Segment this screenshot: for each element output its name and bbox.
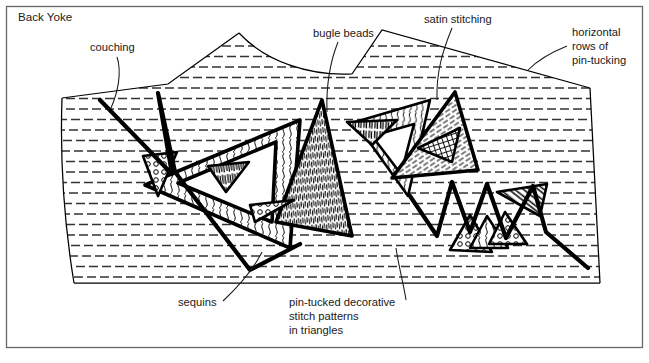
label-sequins: sequins	[178, 296, 217, 308]
label-horizontal-rows-of-pin-tucking: horizontalrows ofpin-tucking	[572, 26, 626, 66]
leader-pin-tucking	[528, 46, 567, 70]
label-back-yoke: Back Yoke	[18, 10, 72, 23]
label-satin-stitching: satin stitching	[424, 13, 492, 25]
illustration-stage: Back Yokecouchingbugle beadssatin stitch…	[0, 0, 649, 363]
label-bugle-beads: bugle beads	[313, 27, 374, 39]
label-pin-tucked-decorative-stitch-patterns-in-triangles: pin-tucked decorativestitch patternsin t…	[289, 296, 395, 336]
label-couching: couching	[90, 41, 135, 53]
back-yoke-technical-illustration: Back Yokecouchingbugle beadssatin stitch…	[0, 0, 649, 363]
